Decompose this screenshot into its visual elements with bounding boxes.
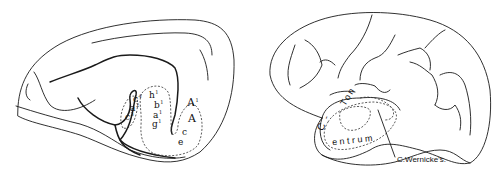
left-brain-drawing [0,0,250,183]
label-e: e [178,138,183,147]
label-ton: Ton [339,85,358,107]
label-g1: g1 [152,119,161,129]
brain-diagram-figure: c4 a2 c3 h1 b1 a1 g1 A1 A c e Ton [0,0,500,183]
label-centrum-c: C [316,122,328,133]
label-A: A [188,113,196,124]
label-c: c [182,128,187,137]
label-dash: - [322,115,331,121]
label-centrum-rest: entrum [332,134,376,147]
label-A1: A1 [187,97,199,108]
label-h1: h1 [149,90,158,100]
label-c3: c3 [125,112,134,122]
callout-wernicke: C.Wernicke's. [397,156,446,164]
